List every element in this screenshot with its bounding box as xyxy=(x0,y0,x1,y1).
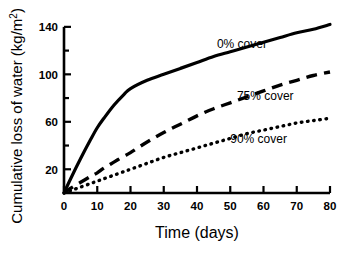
y-tick-label-140: 140 xyxy=(39,21,58,33)
x-tick-label-40: 40 xyxy=(191,200,204,212)
series-label-0-cover: 0% cover xyxy=(217,37,267,51)
y-tick-label-100: 100 xyxy=(39,69,58,81)
series-label-75-cover: 75% cover xyxy=(237,89,294,103)
y-tick-label-20: 20 xyxy=(45,164,58,176)
y-axis-title: Cumulative loss of water (kg/m2) xyxy=(8,8,26,224)
y-axis-title-group: Cumulative loss of water (kg/m2) xyxy=(8,8,26,224)
y-tick-label-60: 60 xyxy=(45,116,58,128)
chart-figure: 2060100140010203040506070800% cover75% c… xyxy=(0,0,354,265)
series-line-0-cover xyxy=(64,24,330,193)
x-tick-label-30: 30 xyxy=(157,200,170,212)
x-tick-label-10: 10 xyxy=(91,200,104,212)
x-tick-label-20: 20 xyxy=(124,200,137,212)
series-line-90-cover xyxy=(64,118,330,193)
x-tick-label-60: 60 xyxy=(257,200,270,212)
series-label-90-cover: 90% cover xyxy=(230,132,287,146)
x-axis-title: Time (days) xyxy=(155,224,239,241)
x-tick-label-70: 70 xyxy=(290,200,303,212)
x-tick-label-0: 0 xyxy=(61,200,67,212)
line-chart: 2060100140010203040506070800% cover75% c… xyxy=(0,0,354,265)
x-tick-label-50: 50 xyxy=(224,200,237,212)
x-tick-label-80: 80 xyxy=(324,200,337,212)
